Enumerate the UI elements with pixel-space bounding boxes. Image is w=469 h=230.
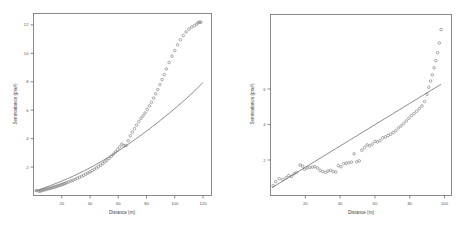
y-axis-ticks-left: 24681012 (24, 22, 34, 169)
x-tick-label: 120 (200, 201, 208, 206)
data-point (395, 129, 398, 132)
data-point (342, 162, 345, 165)
data-point (321, 170, 324, 173)
data-point (376, 141, 379, 144)
plot-frame-right (271, 15, 452, 196)
data-point (400, 125, 403, 128)
data-point (392, 131, 395, 134)
data-point (381, 137, 384, 140)
data-point (410, 114, 413, 117)
data-point (348, 161, 351, 164)
x-tick-label: 100 (171, 201, 179, 206)
data-point (118, 146, 121, 149)
y-tick-label: 12 (24, 22, 29, 27)
data-point (274, 180, 277, 183)
data-point (135, 124, 138, 127)
data-point (144, 112, 147, 115)
semivariogram-panel-left: 20406080100120 24681012 Distance (m) Sem… (0, 0, 234, 230)
data-point (374, 140, 377, 143)
x-axis-label-left: Distance (m) (109, 210, 136, 215)
data-point (171, 55, 174, 58)
data-point (133, 127, 136, 130)
data-point (137, 120, 140, 123)
data-point (163, 73, 166, 76)
y-tick-label: 8 (26, 79, 29, 84)
data-point (188, 28, 191, 31)
data-point (355, 160, 358, 163)
data-point (190, 26, 193, 29)
fitted-model-line-right (272, 84, 441, 187)
data-point (397, 127, 400, 130)
data-points-right (272, 28, 443, 187)
data-point (418, 107, 421, 110)
data-point (185, 31, 188, 34)
data-point (146, 108, 149, 111)
data-point (433, 66, 436, 69)
plot-frame-left (34, 14, 212, 196)
data-point (182, 34, 185, 37)
data-point (337, 164, 340, 167)
data-point (436, 51, 439, 54)
y-tick-label: 4 (263, 122, 266, 127)
data-point (431, 74, 434, 77)
x-tick-label: 80 (144, 201, 149, 206)
data-point (150, 101, 153, 104)
y-tick-label: 2 (263, 158, 266, 163)
data-point (129, 134, 132, 137)
data-point (402, 122, 405, 125)
y-axis-label-right: Semivariance (psu²) (250, 83, 255, 125)
data-point (405, 120, 408, 123)
data-point (334, 171, 337, 174)
y-tick-label: 6 (263, 87, 266, 92)
data-point (148, 105, 151, 108)
data-point (168, 61, 171, 64)
data-point (438, 42, 441, 45)
data-point (152, 97, 155, 100)
data-point (311, 166, 314, 169)
x-axis-ticks-left: 20406080100120 (59, 196, 207, 206)
plot-canvas-left: 20406080100120 24681012 Distance (m) Sem… (0, 0, 234, 230)
data-point (308, 166, 311, 169)
figure-root: 20406080100120 24681012 Distance (m) Sem… (0, 0, 469, 230)
x-tick-label: 40 (88, 201, 93, 206)
data-point (413, 112, 416, 115)
data-point (278, 177, 281, 180)
data-point (154, 93, 157, 96)
data-point (379, 139, 382, 142)
x-tick-label: 20 (59, 201, 64, 206)
y-tick-label: 10 (24, 51, 29, 56)
data-point (389, 133, 392, 136)
data-point (345, 162, 348, 165)
data-point (384, 136, 387, 139)
data-point (368, 145, 371, 148)
data-point (415, 110, 418, 113)
data-point (301, 165, 304, 168)
data-point (408, 117, 411, 120)
x-tick-label: 60 (373, 201, 378, 206)
y-axis-label-left: Semivariance (psu²) (13, 83, 18, 125)
data-point (161, 78, 164, 81)
y-tick-label: 4 (26, 136, 29, 141)
data-point (131, 131, 134, 134)
data-point (327, 170, 330, 173)
data-point (176, 43, 179, 46)
data-point (316, 167, 319, 170)
data-point (429, 80, 432, 83)
data-point (363, 146, 366, 149)
data-point (319, 169, 322, 172)
data-point (358, 160, 361, 163)
y-tick-label: 6 (26, 108, 29, 113)
data-point (440, 28, 443, 31)
data-point (366, 144, 369, 147)
data-point (435, 59, 438, 62)
data-point (159, 83, 162, 86)
data-point (157, 88, 160, 91)
data-point (165, 68, 168, 71)
data-point (428, 86, 431, 89)
data-point (179, 39, 182, 42)
data-point (127, 139, 130, 142)
data-point (421, 105, 424, 108)
data-point (332, 170, 335, 173)
data-point (140, 117, 143, 120)
data-point (340, 165, 343, 168)
